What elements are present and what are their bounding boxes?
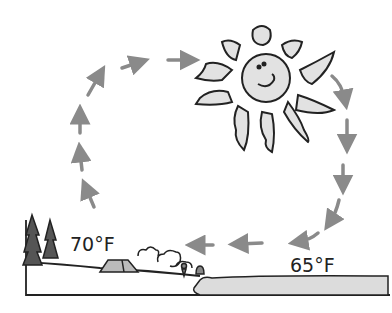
water (194, 276, 388, 295)
tree-icon (23, 215, 58, 265)
sun-icon (196, 26, 334, 152)
person-icon (182, 264, 205, 277)
sea-temperature-label: 65°F (290, 254, 335, 276)
land-temperature-label: 70°F (70, 233, 115, 255)
circulation-arrows (80, 60, 347, 245)
tent-icon (100, 260, 138, 272)
